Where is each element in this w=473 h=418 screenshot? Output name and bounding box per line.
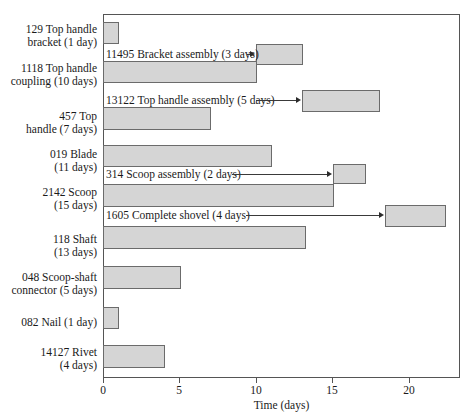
xtick-label-10: 10 [241, 384, 271, 397]
annotation-arrow-11495 [250, 51, 255, 57]
xtick-10 [256, 378, 257, 383]
annotation-label-11495: 11495 Bracket assembly (3 days) [106, 48, 259, 61]
bar-082-nail [103, 307, 119, 329]
row-label-129: 129 Top handle bracket (1 day) [0, 23, 97, 50]
row-label-118: 118 Shaft (13 days) [0, 233, 97, 260]
annotation-label-314: 314 Scoop assembly (2 days) [106, 168, 241, 181]
xtick-20 [409, 378, 410, 383]
xtick-label-5: 5 [164, 384, 194, 397]
bar-1605-complete-shovel [385, 205, 446, 227]
bar-314-scoop-assembly [333, 164, 366, 184]
annotation-arrow-1605 [379, 212, 384, 218]
annotation-arrow-314 [327, 171, 332, 177]
xtick-label-0: 0 [88, 384, 118, 397]
xtick-label-15: 15 [317, 384, 347, 397]
annotation-label-1605: 1605 Complete shovel (4 days) [106, 209, 250, 222]
row-label-457: 457 Top handle (7 days) [0, 110, 97, 137]
bar-14127-rivet [103, 345, 165, 368]
bar-118-shaft [103, 226, 306, 249]
bar-129-top-handle-bracket [103, 22, 119, 44]
xtick-label-20: 20 [394, 384, 424, 397]
annotation-arrow-13122 [296, 97, 301, 103]
bar-1118-top-handle-coupling [103, 61, 257, 83]
bar-457-top-handle [103, 107, 211, 130]
xtick-15 [332, 378, 333, 383]
xtick-0 [103, 378, 104, 383]
row-label-14127: 14127 Rivet (4 days) [0, 346, 97, 373]
bar-13122-top-handle-assembly [302, 90, 380, 112]
xtick-5 [179, 378, 180, 383]
row-label-048: 048 Scoop-shaft connector (5 days) [0, 271, 97, 298]
bar-11495-bracket-assembly [256, 44, 303, 65]
bar-019-blade [103, 145, 272, 167]
bar-048-scoop-shaft-connector [103, 266, 181, 289]
row-label-082: 082 Nail (1 day) [0, 316, 97, 329]
annotation-label-13122: 13122 Top handle assembly (5 days) [106, 94, 275, 107]
annotation-leader-13122 [256, 100, 296, 101]
bar-2142-scoop [103, 184, 334, 207]
gantt-chart: 129 Top handle bracket (1 day) 1118 Top … [0, 0, 473, 418]
row-label-1118: 1118 Top handle coupling (10 days) [0, 62, 97, 89]
x-axis-title: Time (days) [103, 399, 460, 411]
row-label-2142: 2142 Scoop (15 days) [0, 186, 97, 213]
row-label-019: 019 Blade (11 days) [0, 148, 97, 175]
annotation-leader-1605 [246, 215, 379, 216]
annotation-leader-314 [232, 174, 327, 175]
